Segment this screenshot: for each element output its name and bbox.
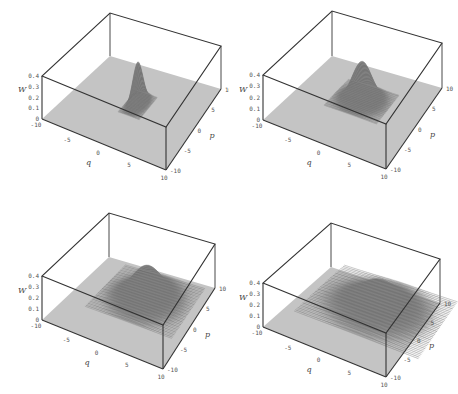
p-tick-label: -10: [390, 166, 401, 173]
z-tick-label: 0.1: [28, 104, 39, 111]
plot-panel-2: 00.10.20.30.4W-10-50510q-10-50510p: [229, 0, 458, 197]
p-tick-label: 0: [417, 337, 421, 344]
q-axis-label: q: [307, 158, 312, 167]
z-axis-label: W: [18, 85, 27, 94]
surface-plot-3: 00.10.20.30.4W-10-50510q-10-50510p: [0, 197, 229, 394]
z-tick-label: 0.4: [28, 72, 39, 79]
z-tick-label: 0.3: [28, 283, 39, 290]
p-tick-label: 0: [418, 126, 422, 133]
z-axis-label: W: [18, 286, 27, 295]
z-tick-label: 0.4: [249, 71, 260, 78]
p-tick-label: -5: [180, 346, 188, 353]
q-tick-label: 10: [157, 373, 165, 380]
p-tick-label: 10: [446, 85, 454, 92]
q-tick-label: -5: [284, 344, 292, 351]
q-tick-label: 10: [380, 381, 388, 388]
p-tick-label: 10: [444, 300, 452, 307]
p-tick-label: -5: [404, 356, 412, 363]
q-tick-label: 10: [380, 173, 388, 180]
z-tick-label: 0.3: [249, 290, 260, 297]
surface-plot-1: 00.10.20.30.4W-10-50510q-10-50510p: [0, 0, 229, 197]
q-tick-label: 5: [127, 161, 131, 168]
z-tick-label: 0.4: [249, 279, 260, 286]
p-axis-label: p: [430, 130, 435, 139]
p-axis-label: p: [429, 341, 434, 350]
z-axis-label: W: [239, 85, 248, 94]
p-tick-label: 0: [193, 326, 197, 333]
z-tick-label: 0.2: [249, 301, 260, 308]
q-tick-label: -10: [31, 322, 42, 329]
z-tick-label: 0.2: [28, 294, 39, 301]
q-axis-label: q: [85, 358, 90, 367]
q-tick-label: 5: [125, 361, 129, 368]
q-axis-label: q: [307, 365, 312, 374]
q-tick-label: 0: [317, 149, 321, 156]
p-tick-label: 5: [431, 319, 435, 326]
p-tick-label: -5: [184, 147, 192, 154]
q-tick-label: 10: [160, 174, 168, 181]
z-tick-label: 0.2: [249, 94, 260, 101]
surface-plot-2: 00.10.20.30.4W-10-50510q-10-50510p: [229, 0, 458, 197]
q-tick-label: -5: [63, 336, 71, 343]
z-tick-label: 0.2: [28, 94, 39, 101]
p-tick-label: -10: [390, 374, 401, 381]
z-axis-label: W: [239, 293, 248, 302]
q-tick-label: -10: [31, 121, 42, 128]
p-tick-label: -10: [170, 167, 181, 174]
q-tick-label: -10: [252, 329, 263, 336]
q-tick-label: -5: [284, 136, 292, 143]
z-tick-label: 0.1: [28, 305, 39, 312]
plot-panel-3: 00.10.20.30.4W-10-50510q-10-50510p: [0, 197, 229, 394]
p-axis-label: p: [205, 330, 210, 339]
z-tick-label: 0.1: [249, 105, 260, 112]
p-tick-label: 5: [206, 305, 210, 312]
z-tick-label: 0.4: [28, 272, 39, 279]
p-tick-label: -5: [404, 146, 412, 153]
z-tick-label: 0.3: [249, 82, 260, 89]
p-tick-label: 5: [432, 105, 436, 112]
q-tick-label: 5: [347, 369, 351, 376]
z-tick-label: 0.3: [28, 83, 39, 90]
p-tick-label: 10: [219, 285, 227, 292]
q-tick-label: -10: [252, 122, 263, 129]
q-tick-label: 0: [96, 149, 100, 156]
z-tick-label: 0.1: [249, 312, 260, 319]
p-axis-label: p: [210, 131, 215, 140]
surface-plot-4: 00.10.20.30.4W-10-50510q-10-50510p: [229, 197, 458, 394]
plot-panel-1: 00.10.20.30.4W-10-50510q-10-50510p: [0, 0, 229, 197]
plot-panel-4: 00.10.20.30.4W-10-50510q-10-50510p: [229, 197, 458, 394]
p-tick-label: 0: [198, 127, 202, 134]
q-tick-label: -5: [63, 136, 71, 143]
q-tick-label: 0: [317, 356, 321, 363]
q-tick-label: 5: [347, 161, 351, 168]
q-tick-label: 0: [95, 349, 99, 356]
p-tick-label: 5: [211, 106, 215, 113]
p-tick-label: -10: [167, 366, 178, 373]
q-axis-label: q: [86, 158, 91, 167]
